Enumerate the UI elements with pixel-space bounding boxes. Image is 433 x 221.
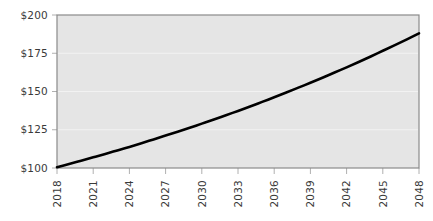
y-tick-label: $150 [20, 85, 48, 97]
line-chart: $100$125$150$175$200 2018202120242027203… [0, 0, 433, 221]
x-tick-label: 2039 [304, 180, 316, 208]
x-tick-label: 2036 [268, 180, 280, 208]
x-tick-label: 2048 [413, 180, 425, 208]
y-tick-label: $200 [20, 9, 48, 21]
x-tick-label: 2027 [159, 180, 171, 208]
x-tick-label: 2024 [123, 180, 135, 208]
x-tick-label: 2045 [377, 180, 389, 208]
x-tick-label: 2042 [340, 180, 352, 208]
x-tick-label: 2018 [51, 180, 63, 208]
y-tick-label: $100 [20, 162, 48, 174]
x-tick-label: 2021 [87, 180, 99, 208]
y-tick-label: $125 [20, 123, 48, 135]
y-tick-label: $175 [20, 47, 48, 59]
x-tick-label: 2030 [196, 180, 208, 208]
chart-canvas: $100$125$150$175$200 2018202120242027203… [0, 0, 433, 221]
x-tick-label: 2033 [232, 180, 244, 208]
